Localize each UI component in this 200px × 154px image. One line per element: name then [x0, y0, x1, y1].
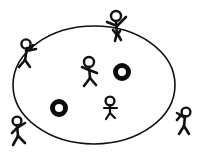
drawing-canvas: Stick figures around an ellipse [0, 0, 200, 154]
background [0, 0, 200, 154]
stick-figure-scene [0, 0, 200, 154]
